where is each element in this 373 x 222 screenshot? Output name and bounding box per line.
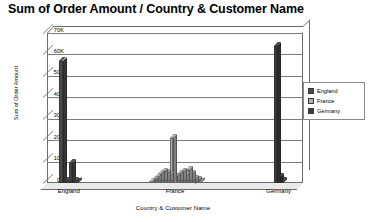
legend-swatch-icon	[308, 88, 314, 94]
bar-side-face	[63, 57, 67, 183]
x-axis-category-label: France	[166, 188, 185, 194]
bar-front-face	[274, 46, 277, 183]
bar	[274, 46, 277, 183]
legend-label: Germany	[317, 108, 340, 114]
chart-title: Sum of Order Amount / Country & Customer…	[8, 2, 304, 16]
y-axis-tick-label: 70K	[54, 27, 64, 33]
bar	[149, 182, 152, 184]
legend-label: France	[317, 98, 334, 104]
plot-area	[47, 33, 303, 183]
x-axis-title: Country & Customer Name	[58, 205, 288, 211]
plot-top-face	[47, 26, 310, 33]
legend: EnglandFranceGermany	[303, 82, 365, 120]
legend-item[interactable]: England	[308, 87, 361, 95]
gridline	[47, 54, 303, 55]
x-axis-category-label: Germany	[266, 188, 291, 194]
legend-swatch-icon	[308, 98, 314, 104]
gridline	[47, 33, 303, 34]
y-axis-title: Sum of Order Amount	[13, 41, 19, 145]
gridline	[47, 76, 303, 77]
bar-side-face	[173, 134, 177, 183]
bar-front-face	[59, 61, 62, 183]
bar	[59, 61, 62, 183]
x-axis-category-label: England	[58, 188, 80, 194]
y-axis-tick-label: 60K	[54, 48, 64, 54]
chart-container: Sum of Order Amount / Country & Customer…	[0, 0, 373, 222]
legend-item[interactable]: Germany	[308, 107, 361, 115]
bar-side-face	[277, 42, 281, 183]
gridline	[47, 97, 303, 98]
legend-swatch-icon	[308, 108, 314, 114]
gridline	[47, 119, 303, 120]
legend-label: England	[317, 88, 338, 94]
legend-item[interactable]: France	[308, 97, 361, 105]
